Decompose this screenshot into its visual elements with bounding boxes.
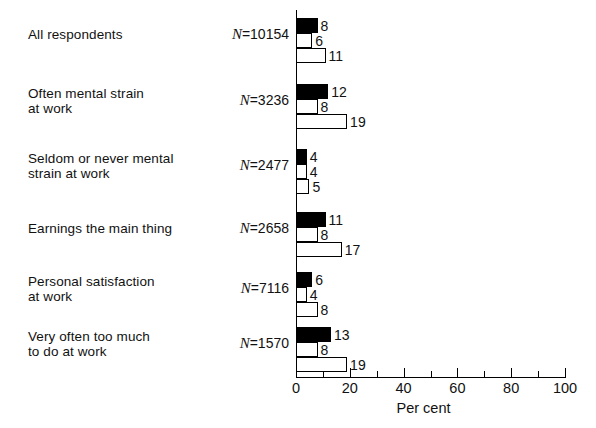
bar-chart: All respondentsN=101548611Often mental s…: [0, 0, 596, 428]
category-label: Seldom or never mental strain at work: [28, 151, 243, 181]
bar-value-label: 8: [321, 303, 329, 317]
category-n-label: N=3236: [240, 93, 289, 108]
category-label: Often mental strain at work: [28, 86, 243, 116]
axis-tick: [404, 368, 405, 377]
bar-value-label: 4: [310, 165, 318, 179]
axis-tick-label: 60: [437, 381, 477, 396]
axis-title: Per cent: [397, 401, 451, 416]
axis-tick: [457, 368, 458, 377]
category-n-label: N=2658: [240, 221, 289, 236]
bar-value-label: 6: [315, 273, 323, 287]
bar-white: [296, 242, 342, 257]
bar-value-label: 8: [321, 343, 329, 357]
bar-value-label: 11: [329, 213, 344, 227]
category-n-label: N=7116: [241, 281, 289, 296]
axis-tick: [431, 371, 432, 377]
category-label: All respondents: [28, 27, 243, 42]
bar-value-label: 4: [310, 150, 318, 164]
axis-tick-label: 100: [545, 381, 585, 396]
bar-value-label: 17: [345, 243, 361, 257]
axis-tick: [377, 371, 378, 377]
category-n-label: N=10154: [232, 27, 289, 42]
bar-black: [296, 272, 312, 287]
axis-tick: [565, 368, 566, 377]
bar-white: [296, 179, 309, 194]
axis-tick: [484, 371, 485, 377]
bar-value-label: 4: [310, 288, 318, 302]
axis-tick: [323, 371, 324, 377]
bar-value-label: 19: [350, 358, 366, 372]
category-n-label: N=1570: [240, 336, 289, 351]
bar-value-label: 8: [321, 228, 329, 242]
axis-tick-label: 80: [491, 381, 531, 396]
axis-tick: [296, 368, 297, 377]
axis-vertical-line: [296, 10, 297, 377]
category-label: Personal satisfaction at work: [28, 274, 243, 304]
axis-tick: [511, 368, 512, 377]
bar-black: [296, 84, 328, 99]
axis-tick: [538, 371, 539, 377]
bar-black: [296, 18, 318, 33]
bar-white: [296, 48, 326, 63]
bar-value-label: 8: [321, 19, 329, 33]
axis-horizontal-line: [296, 377, 566, 378]
bar-stipple: [296, 33, 312, 48]
bar-value-label: 6: [315, 34, 323, 48]
bar-value-label: 12: [331, 85, 347, 99]
bar-white: [296, 357, 347, 372]
bar-value-label: 19: [350, 115, 366, 129]
axis-tick-label: 40: [384, 381, 424, 396]
bar-stipple: [296, 227, 318, 242]
category-label: Very often too much to do at work: [28, 329, 243, 359]
bar-value-label: 5: [312, 180, 320, 194]
bar-value-label: 11: [329, 49, 344, 63]
axis-tick: [350, 368, 351, 377]
bar-white: [296, 302, 318, 317]
bar-white: [296, 114, 347, 129]
category-n-label: N=2477: [240, 158, 289, 173]
bar-black: [296, 212, 326, 227]
bar-stipple: [296, 99, 318, 114]
bar-value-label: 8: [321, 100, 329, 114]
bar-black: [296, 149, 307, 164]
bar-stipple: [296, 164, 307, 179]
bar-stipple: [296, 287, 307, 302]
axis-tick-label: 0: [276, 381, 316, 396]
axis-tick-label: 20: [330, 381, 370, 396]
bar-black: [296, 327, 331, 342]
category-label: Earnings the main thing: [28, 221, 243, 236]
bar-value-label: 13: [334, 328, 350, 342]
bar-stipple: [296, 342, 318, 357]
